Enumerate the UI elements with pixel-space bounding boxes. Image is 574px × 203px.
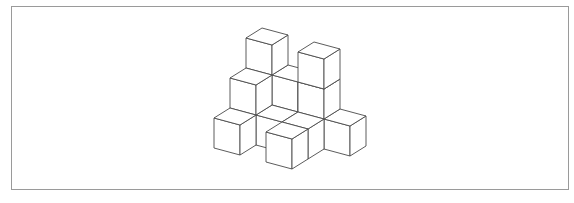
cube	[246, 28, 288, 75]
cube	[266, 122, 308, 169]
cube	[214, 108, 256, 155]
cube	[298, 42, 340, 89]
cube	[324, 109, 366, 156]
cube	[230, 68, 272, 115]
cube-stack-diagram	[0, 0, 574, 203]
